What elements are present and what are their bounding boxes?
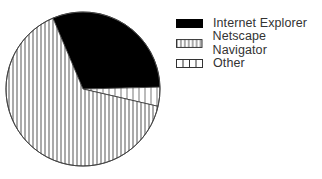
legend-label: Internet Explorer — [213, 16, 307, 30]
solid-black-swatch-icon — [176, 19, 203, 28]
dense-stripes-swatch-icon — [176, 39, 203, 48]
legend-label: Other — [213, 56, 245, 70]
legend: Internet Explorer Netscape Navigator Oth… — [176, 14, 322, 74]
sparse-stripes-swatch-icon — [176, 59, 203, 68]
pie-chart — [0, 0, 170, 179]
pie-slices — [6, 12, 160, 166]
legend-label: Netscape Navigator — [213, 29, 322, 57]
legend-item-netscape-navigator: Netscape Navigator — [176, 34, 322, 52]
